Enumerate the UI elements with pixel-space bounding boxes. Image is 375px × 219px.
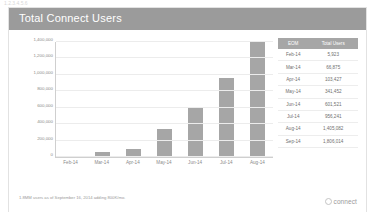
- chart-x-tick-label: Jul-14: [214, 160, 238, 174]
- table-header-row: EOM Total Users: [278, 38, 358, 49]
- chart-y-tick-label: 400,000: [37, 119, 53, 124]
- bar-fill: [188, 108, 202, 157]
- chart-gridline: [56, 107, 273, 108]
- chart-y-tick-label: 0: [51, 152, 53, 157]
- table-cell-eom: Aug-14: [278, 123, 308, 134]
- top-strip: 1.2.3.4.5.6: [0, 0, 375, 7]
- chart-y-tick-label: 1,200,000: [33, 53, 53, 58]
- chart-gridline: [56, 90, 273, 91]
- chart-gridline: [56, 41, 273, 42]
- table-cell-eom: Jun-14: [278, 99, 308, 110]
- table-row: Feb-145,923: [278, 49, 358, 61]
- bar-fill: [157, 129, 171, 157]
- connect-logo: connect: [325, 198, 357, 205]
- circle-icon: [325, 198, 332, 205]
- table-header-total-users: Total Users: [308, 38, 358, 49]
- chart-y-tick-label: 1,000,000: [33, 69, 53, 74]
- table-row: May-14341,452: [278, 86, 358, 98]
- logo-label: connect: [334, 198, 357, 205]
- chart-y-tick-label: 1,400,000: [33, 37, 53, 42]
- data-table: EOM Total Users Feb-145,923Mar-1466,875A…: [278, 38, 358, 148]
- chart-x-tick-label: May-14: [152, 160, 176, 174]
- slide-canvas: 1.2.3.4.5.6 Total Connect Users 0200,000…: [0, 0, 375, 219]
- table-row: Mar-1466,875: [278, 61, 358, 73]
- table-row: Jul-14956,241: [278, 111, 358, 123]
- table-cell-total-users: 1,405,082: [308, 123, 358, 134]
- table-cell-eom: Sep-14: [278, 136, 308, 147]
- page-title: Total Connect Users: [19, 12, 122, 24]
- table-cell-eom: Apr-14: [278, 74, 308, 85]
- table-cell-total-users: 1,806,014: [308, 136, 358, 147]
- table-header-eom: EOM: [278, 38, 308, 49]
- card-title-bar: Total Connect Users: [9, 8, 366, 30]
- chart-x-axis-labels: Feb-14Mar-14Apr-14May-14Jun-14Jul-14Aug-…: [55, 160, 273, 174]
- table-cell-total-users: 341,452: [308, 86, 358, 97]
- table-cell-total-users: 103,427: [308, 74, 358, 85]
- table-cell-total-users: 956,241: [308, 111, 358, 122]
- table-cell-total-users: 66,875: [308, 61, 358, 72]
- table-cell-eom: May-14: [278, 86, 308, 97]
- chart-x-tick-label: Aug-14: [245, 160, 269, 174]
- chart-x-tick-label: Feb-14: [58, 160, 82, 174]
- bar-chart: 0200,000400,000600,000800,0001,000,0001,…: [15, 36, 277, 176]
- chart-gridline: [56, 57, 273, 58]
- table-row: Sep-141,806,014: [278, 136, 358, 148]
- chart-y-tick-label: 200,000: [37, 135, 53, 140]
- chart-y-tick-label: 800,000: [37, 86, 53, 91]
- card-body: 0200,000400,000600,000800,0001,000,0001,…: [9, 30, 366, 212]
- chart-gridline: [56, 123, 273, 124]
- table-row: Aug-141,405,082: [278, 123, 358, 135]
- chart-card: Total Connect Users 0200,000400,000600,0…: [8, 7, 367, 212]
- table-cell-eom: Mar-14: [278, 61, 308, 72]
- table-row: Jun-14601,521: [278, 99, 358, 111]
- table-cell-eom: Jul-14: [278, 111, 308, 122]
- table-body: Feb-145,923Mar-1466,875Apr-14103,427May-…: [278, 49, 358, 148]
- chart-gridline: [56, 156, 273, 157]
- table-cell-total-users: 601,521: [308, 99, 358, 110]
- chart-y-tick-label: 600,000: [37, 102, 53, 107]
- chart-gridline: [56, 74, 273, 75]
- chart-x-tick-label: Jun-14: [183, 160, 207, 174]
- chart-x-tick-label: Mar-14: [90, 160, 114, 174]
- chart-gridline: [56, 140, 273, 141]
- table-cell-eom: Feb-14: [278, 49, 308, 60]
- chart-plot-area: 0200,000400,000600,000800,0001,000,0001,…: [55, 42, 273, 158]
- chart-x-tick-label: Apr-14: [121, 160, 145, 174]
- footnote: 1.8MM users as of September 16, 2014 add…: [19, 195, 125, 200]
- table-row: Apr-14103,427: [278, 74, 358, 86]
- table-cell-total-users: 5,923: [308, 49, 358, 60]
